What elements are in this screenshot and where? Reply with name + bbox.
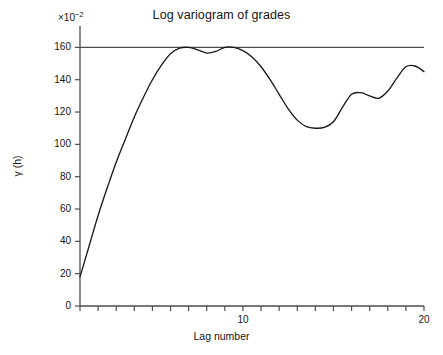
variogram-figure: Log variogram of grades ×10−2 γ (h) Lag … [0,0,443,355]
plot-area [0,0,443,355]
variogram-curve [80,47,424,277]
y-tick-marks [75,47,80,306]
axes [80,26,424,306]
x-tick-marks [80,306,424,311]
